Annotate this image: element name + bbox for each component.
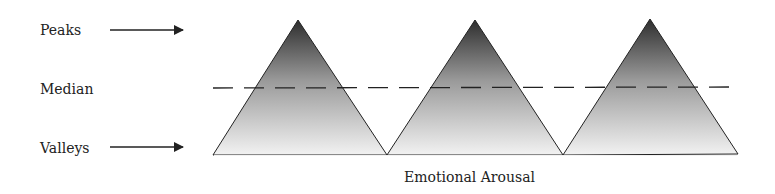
peaks-label: Peaks — [40, 23, 81, 37]
x-axis-label: Emotional Arousal — [404, 170, 535, 184]
emotional-arousal-diagram: Peaks Median Valleys Emotional Arousal — [0, 0, 775, 194]
peaks-valleys-graphic — [0, 0, 775, 194]
peak-triangle-1 — [213, 20, 387, 155]
valleys-label: Valleys — [40, 141, 90, 155]
median-label: Median — [40, 82, 93, 96]
